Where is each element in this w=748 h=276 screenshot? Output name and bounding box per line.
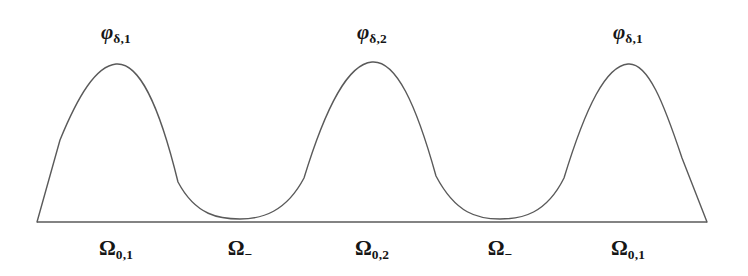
top-label-phi-delta-1-right-sub: δ,1: [625, 31, 643, 46]
top-label-phi-delta-2-base: φ: [357, 20, 369, 44]
bottom-label-omega-0-1-sub: 0,1: [116, 247, 133, 262]
bottom-label-omega-0-1: Ω0,1: [99, 238, 133, 259]
bottom-label-omega-0-1-right: Ω0,1: [611, 238, 645, 259]
bottom-label-omega-0-2: Ω0,2: [355, 238, 389, 259]
top-label-phi-delta-2-sub: δ,2: [369, 31, 387, 46]
bump-function-curve: [37, 62, 707, 222]
bottom-label-omega-minus-left: Ω−: [228, 238, 253, 259]
figure-container: φδ,1 φδ,2 φδ,1 Ω0,1 Ω− Ω0,2 Ω− Ω0,1: [0, 0, 748, 276]
top-label-phi-delta-1-right: φδ,1: [613, 22, 643, 43]
top-label-phi-delta-2: φδ,2: [357, 22, 387, 43]
bottom-label-omega-0-2-base: Ω: [355, 236, 372, 260]
top-label-phi-delta-1-right-base: φ: [613, 20, 625, 44]
top-label-phi-delta-1-sub: δ,1: [113, 31, 131, 46]
bottom-label-omega-0-1-base: Ω: [99, 236, 116, 260]
bottom-label-omega-0-1-right-base: Ω: [611, 236, 628, 260]
bottom-label-omega-minus-right: Ω−: [488, 238, 513, 259]
bottom-label-omega-minus-right-base: Ω: [488, 236, 505, 260]
bottom-label-omega-minus-left-sub: −: [244, 247, 252, 262]
bottom-label-omega-0-2-sub: 0,2: [372, 247, 389, 262]
bottom-label-omega-minus-left-base: Ω: [228, 236, 245, 260]
bottom-label-omega-0-1-right-sub: 0,1: [628, 247, 645, 262]
top-label-phi-delta-1: φδ,1: [101, 22, 131, 43]
top-label-phi-delta-1-base: φ: [101, 20, 113, 44]
bottom-label-omega-minus-right-sub: −: [504, 247, 512, 262]
